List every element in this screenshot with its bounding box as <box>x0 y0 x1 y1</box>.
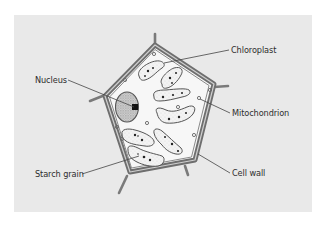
nucleolus <box>132 104 138 110</box>
label-nucleus: Nucleus <box>35 75 67 85</box>
label-chloroplast: Chloroplast <box>231 45 276 55</box>
label-cell-wall: Cell wall <box>232 168 265 178</box>
label-mitochondrion: Mitochondrion <box>232 108 289 118</box>
label-starch-grain: Starch grain <box>35 169 84 179</box>
nucleus <box>116 92 139 122</box>
